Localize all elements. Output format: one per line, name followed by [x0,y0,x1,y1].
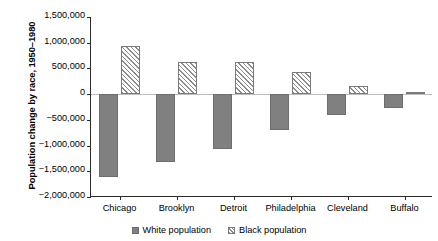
bar-group: Philadelphia [262,17,319,196]
x-tick-mark [177,196,178,200]
bar-black-population [349,86,368,94]
y-tick-label: −1,500,000 [39,164,85,174]
bar-black-population [121,46,140,94]
x-tick-mark [348,196,349,200]
bar-group: Buffalo [376,17,433,196]
y-tick-label: −1,000,000 [39,139,85,149]
chart-legend: White populationBlack population [0,225,438,235]
y-tick-label: 500,000 [52,61,85,71]
x-tick-label: Cleveland [327,203,368,213]
x-tick-mark [291,196,292,200]
x-tick-label: Chicago [103,203,137,213]
bar-black-population [178,62,197,94]
legend-label: Black population [239,225,306,235]
y-tick-label: 0 [80,87,85,97]
plot-area: 1,500,0001,000,000500,0000−500,000−1,000… [90,17,432,197]
x-tick-label: Philadelphia [265,203,315,213]
y-tick-label: −500,000 [46,113,85,123]
x-tick-mark [405,196,406,200]
y-tick-mark [87,197,91,198]
y-axis-title: Population change by race, 1950–1980 [26,13,37,199]
bar-black-population [235,62,254,94]
bar-white-population [327,94,346,115]
y-tick-label: 1,500,000 [44,10,85,20]
legend-swatch-white-population [132,227,139,234]
bar-group: Brooklyn [148,17,205,196]
population-change-bar-chart: Population change by race, 1950–1980 1,5… [0,0,438,241]
bar-group: Chicago [91,17,148,196]
bar-white-population [99,94,118,177]
y-tick-label: −2,000,000 [39,190,85,200]
x-tick-label: Buffalo [390,203,418,213]
x-tick-mark [234,196,235,200]
x-tick-label: Brooklyn [159,203,195,213]
legend-item: White population [132,225,211,235]
x-tick-mark [120,196,121,200]
bar-group: Cleveland [319,17,376,196]
bar-white-population [213,94,232,149]
bar-black-population [406,92,425,95]
bar-group: Detroit [205,17,262,196]
legend-item: Black population [228,225,306,235]
bar-white-population [384,94,403,108]
x-tick-label: Detroit [220,203,247,213]
legend-swatch-black-population [228,227,235,234]
y-tick-label: 1,000,000 [44,36,85,46]
bar-black-population [292,72,311,94]
bar-white-population [156,94,175,162]
legend-label: White population [143,225,211,235]
bar-white-population [270,94,289,130]
